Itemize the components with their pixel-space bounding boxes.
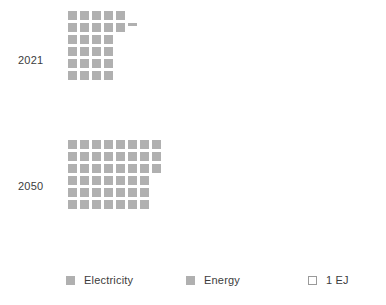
waffle-cell xyxy=(80,188,89,197)
waffle-cell xyxy=(128,152,137,161)
waffle-cell xyxy=(104,188,113,197)
waffle-cell xyxy=(92,200,101,209)
legend-swatch-energy-icon xyxy=(186,276,195,285)
waffle-cell xyxy=(128,140,137,149)
waffle-cell xyxy=(92,164,101,173)
waffle-cell xyxy=(128,188,137,197)
waffle-cell xyxy=(68,200,77,209)
waffle-chart: 2021 2050 Electricity Energy 1 EJ xyxy=(0,0,386,305)
legend-item-electricity[interactable]: Electricity xyxy=(66,268,133,292)
waffle-cell xyxy=(80,152,89,161)
waffle-cell xyxy=(128,164,137,173)
waffle-cell xyxy=(152,140,161,149)
waffle-cell xyxy=(92,176,101,185)
waffle-cell xyxy=(104,152,113,161)
legend-label-unit: 1 EJ xyxy=(326,274,349,286)
waffle-cell xyxy=(104,164,113,173)
waffle-cell xyxy=(140,176,149,185)
waffle-cell xyxy=(116,140,125,149)
waffle-cell xyxy=(140,152,149,161)
waffle-cell xyxy=(80,176,89,185)
legend-label-energy: Energy xyxy=(204,274,240,286)
waffle-group-2050: 2050 xyxy=(0,0,386,260)
waffle-cell xyxy=(104,176,113,185)
legend-label-electricity: Electricity xyxy=(84,274,133,286)
waffle-cell xyxy=(116,152,125,161)
waffle-cell xyxy=(116,164,125,173)
waffle-cell xyxy=(68,188,77,197)
waffle-cell xyxy=(140,200,149,209)
waffle-cell xyxy=(152,152,161,161)
chart-legend: Electricity Energy 1 EJ xyxy=(0,268,386,292)
waffle-cell xyxy=(104,140,113,149)
waffle-cell xyxy=(68,164,77,173)
legend-swatch-electricity-icon xyxy=(66,276,75,285)
waffle-cell xyxy=(128,176,137,185)
waffle-cell xyxy=(140,188,149,197)
legend-swatch-unit-icon xyxy=(308,276,317,285)
waffle-cell xyxy=(92,152,101,161)
waffle-cell xyxy=(116,188,125,197)
waffle-cell xyxy=(68,176,77,185)
waffle-cell xyxy=(92,188,101,197)
waffle-cell xyxy=(92,140,101,149)
waffle-grid-2050 xyxy=(68,140,164,212)
waffle-cell xyxy=(140,140,149,149)
waffle-cell xyxy=(68,152,77,161)
waffle-cell xyxy=(128,200,137,209)
waffle-cell xyxy=(68,140,77,149)
waffle-cell xyxy=(116,176,125,185)
waffle-cell xyxy=(152,164,161,173)
waffle-cell xyxy=(80,200,89,209)
waffle-cell xyxy=(80,140,89,149)
waffle-cell xyxy=(140,164,149,173)
waffle-cell xyxy=(104,200,113,209)
waffle-cell xyxy=(116,200,125,209)
legend-item-energy[interactable]: Energy xyxy=(186,268,240,292)
waffle-cell xyxy=(80,164,89,173)
group-label-2050: 2050 xyxy=(18,180,43,192)
legend-item-unit[interactable]: 1 EJ xyxy=(308,268,349,292)
